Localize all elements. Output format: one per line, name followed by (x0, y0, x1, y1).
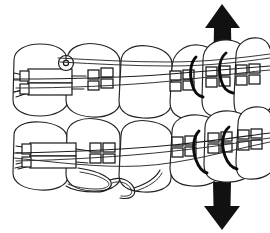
figure-canvas (0, 0, 270, 233)
down-arrow-icon (204, 182, 240, 230)
tooth-lower-3 (119, 121, 172, 193)
lower-arch (13, 107, 270, 199)
orthodontic-appliance-figure: Orthodontic appliance diagram — upper an… (0, 0, 270, 233)
upper-arch (13, 38, 270, 120)
